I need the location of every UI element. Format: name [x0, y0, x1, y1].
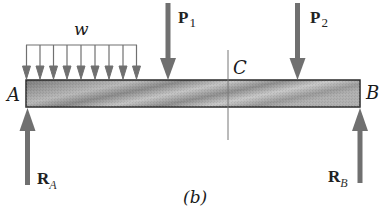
distributed-load-label: w: [74, 19, 89, 39]
label-b: B: [365, 82, 379, 103]
load-arrow-icon: [91, 45, 99, 79]
load-arrow-icon: [105, 45, 113, 79]
load-arrow-icon: [36, 45, 44, 79]
reaction-ra: RA: [20, 108, 58, 192]
arrow-down-icon: [290, 58, 306, 80]
point-load-p2: P2: [290, 3, 328, 80]
beam: [26, 80, 360, 107]
load-arrow-icon: [23, 45, 31, 79]
rb-label: RB: [328, 167, 348, 190]
label-a: A: [5, 84, 20, 105]
load-arrow-icon: [119, 45, 127, 79]
load-arrow-icon: [133, 45, 141, 79]
point-load-p1: P1: [160, 3, 196, 80]
label-c: C: [233, 57, 247, 78]
reaction-rb: RB: [328, 108, 368, 190]
load-arrow-icon: [63, 45, 71, 79]
ra-label: RA: [37, 169, 57, 192]
load-arrow-icon: [77, 45, 85, 79]
distributed-load: w: [23, 19, 141, 79]
distributed-load-arrows: [23, 45, 141, 79]
arrow-down-icon: [160, 58, 176, 80]
arrow-up-icon: [20, 108, 36, 131]
p1-label: P1: [178, 8, 196, 30]
figure-caption: (b): [183, 187, 207, 207]
beam-free-body-diagram: w P1 P2 RA RB A B C (b): [0, 0, 382, 213]
arrow-up-icon: [352, 108, 368, 131]
load-arrow-icon: [50, 45, 58, 79]
p2-label: P2: [310, 8, 328, 30]
